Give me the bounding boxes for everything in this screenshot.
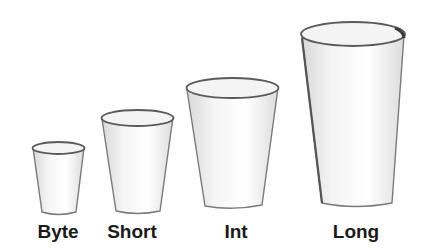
label-byte: Byte [37,221,78,243]
cup-int-icon [187,78,279,208]
cups-illustration [0,0,426,249]
cup-byte-icon [33,142,85,215]
label-int: Int [224,221,247,243]
cup-long-icon [301,22,405,207]
label-long: Long [333,221,379,243]
cup-short-icon [102,110,174,214]
label-short: Short [107,221,157,243]
